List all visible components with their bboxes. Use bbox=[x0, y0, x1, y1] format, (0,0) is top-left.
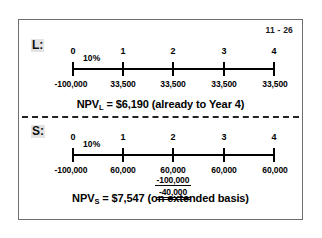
npv-s-subscript: S bbox=[94, 197, 99, 206]
tick-year-3 bbox=[223, 148, 225, 162]
tick-year-4 bbox=[273, 148, 275, 162]
tick-year-0 bbox=[72, 148, 74, 162]
cash-flow-year-4: 60,000 bbox=[242, 165, 308, 175]
tick-year-1 bbox=[122, 148, 124, 162]
period-label-3: 3 bbox=[209, 46, 239, 56]
npv-l-value-text: = $6,190 (already to Year 4) bbox=[103, 98, 244, 110]
project-l-timeline: 0 1 2 3 4 10% -100,000 33,500 33,500 33,… bbox=[19, 42, 302, 98]
project-s-npv-result: NPVS = $7,547 (on extended basis) bbox=[19, 192, 302, 204]
slide-frame: 11 - 26 L: 0 1 2 3 4 10% -100,000 33,500… bbox=[18, 19, 303, 220]
period-label-1: 1 bbox=[108, 132, 138, 142]
period-label-4: 4 bbox=[259, 132, 289, 142]
replacement-outlay-value: -100,000 bbox=[155, 175, 192, 186]
period-label-3: 3 bbox=[209, 132, 239, 142]
tick-year-1 bbox=[122, 62, 124, 76]
tick-year-2 bbox=[172, 62, 174, 76]
cash-flow-year-4: 33,500 bbox=[242, 79, 308, 89]
project-l-npv-result: NPVL = $6,190 (already to Year 4) bbox=[19, 98, 302, 110]
page-number: 11 - 26 bbox=[266, 25, 293, 35]
npv-l-prefix: NPV bbox=[77, 98, 99, 110]
tick-year-3 bbox=[223, 62, 225, 76]
period-label-1: 1 bbox=[108, 46, 138, 56]
discount-rate-label: 10% bbox=[83, 139, 100, 149]
slide-canvas: 11 - 26 L: 0 1 2 3 4 10% -100,000 33,500… bbox=[0, 0, 322, 238]
period-label-4: 4 bbox=[259, 46, 289, 56]
tick-year-2 bbox=[172, 148, 174, 162]
npv-s-prefix: NPV bbox=[72, 192, 94, 204]
project-s-timeline: 0 1 2 3 4 10% -100,000 60,000 60,000 60,… bbox=[19, 128, 302, 184]
npv-s-value-text: = $7,547 (on extended basis) bbox=[99, 192, 249, 204]
tick-year-0 bbox=[72, 62, 74, 76]
period-label-2: 2 bbox=[158, 46, 188, 56]
tick-year-4 bbox=[273, 62, 275, 76]
section-divider bbox=[22, 116, 299, 118]
period-label-2: 2 bbox=[158, 132, 188, 142]
npv-l-subscript: L bbox=[99, 103, 103, 112]
discount-rate-label: 10% bbox=[83, 53, 100, 63]
